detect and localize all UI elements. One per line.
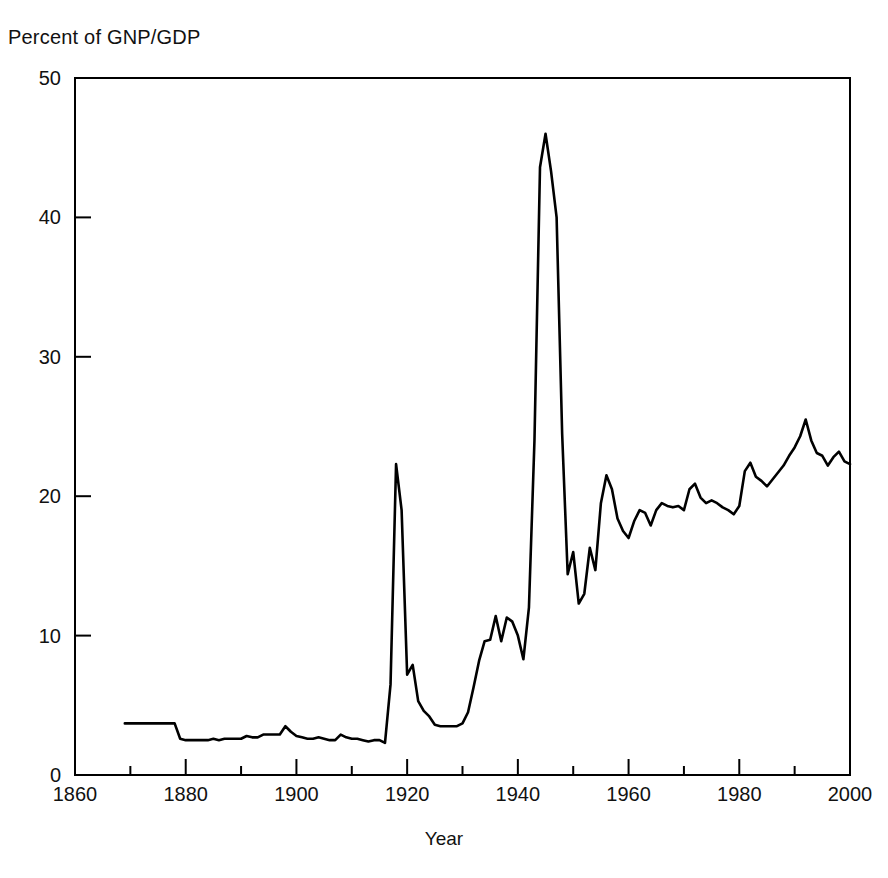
line-chart-plot — [0, 0, 888, 878]
x-tick-label: 1980 — [717, 783, 762, 806]
plot-frame — [75, 78, 850, 775]
chart-figure: Percent of GNP/GDP 01020304050 186018801… — [0, 0, 888, 878]
x-tick-label: 1880 — [163, 783, 208, 806]
plot-border — [75, 78, 850, 775]
y-tick-label: 20 — [0, 485, 61, 508]
x-tick-label: 1960 — [606, 783, 651, 806]
x-tick-label: 1940 — [496, 783, 541, 806]
x-tick-label: 1920 — [385, 783, 430, 806]
y-tick-label: 50 — [0, 67, 61, 90]
y-tick-label: 40 — [0, 206, 61, 229]
x-axis-title: Year — [0, 828, 888, 850]
x-tick-label: 1900 — [274, 783, 319, 806]
x-tick-label: 2000 — [828, 783, 873, 806]
y-tick-label: 10 — [0, 624, 61, 647]
x-tick-label: 1860 — [53, 783, 98, 806]
y-tick-label: 30 — [0, 345, 61, 368]
